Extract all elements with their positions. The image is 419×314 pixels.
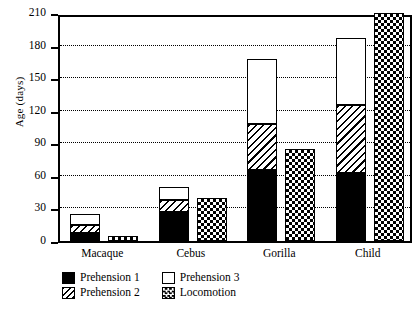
y-tick-mark — [51, 112, 58, 114]
bar-segment-macaque-prehension-1 — [70, 233, 100, 241]
y-tick-label: 90 — [35, 137, 47, 149]
x-axis-labels: MacaqueCebusGorillaChild — [58, 247, 412, 265]
y-tick-mark — [51, 177, 58, 179]
bar-segment-macaque-prehension-3 — [70, 214, 100, 225]
bar-segment-child-prehension-3 — [336, 38, 366, 105]
legend-item-locomotion: Locomotion — [162, 287, 240, 299]
legend-swatch-p1 — [62, 272, 75, 284]
bar-group — [60, 17, 410, 241]
y-axis-ticks: 0306090120150180210 — [0, 15, 58, 243]
bar-locomotion-macaque — [108, 236, 138, 241]
chart-legend: Prehension 1Prehension 3Prehension 2Loco… — [62, 272, 239, 299]
y-tick-label: 30 — [35, 202, 47, 214]
legend-label: Prehension 1 — [80, 272, 140, 284]
legend-swatch-p3 — [162, 272, 175, 284]
bar-stack-child — [336, 38, 366, 241]
bar-segment-macaque-locomotion — [108, 236, 138, 241]
bar-segment-gorilla-prehension-1 — [247, 170, 277, 241]
bar-segment-child-prehension-1 — [336, 173, 366, 241]
y-tick-mark — [51, 47, 58, 49]
x-axis-label-child: Child — [324, 247, 413, 259]
y-tick-label: 0 — [40, 235, 46, 247]
bar-segment-child-prehension-2 — [336, 105, 366, 172]
legend-label: Locomotion — [180, 287, 236, 299]
y-tick-mark — [51, 79, 58, 81]
x-axis-label-gorilla: Gorilla — [235, 247, 324, 259]
y-tick-mark — [51, 242, 58, 244]
legend-item-prehension-1: Prehension 1 — [62, 272, 140, 284]
bar-stack-gorilla — [247, 59, 277, 241]
x-axis-label-cebus: Cebus — [147, 247, 236, 259]
y-tick-mark — [51, 144, 58, 146]
bar-segment-gorilla-prehension-3 — [247, 59, 277, 124]
legend-swatch-loco — [162, 287, 175, 299]
bar-segment-cebus-prehension-1 — [159, 212, 189, 241]
legend-item-prehension-3: Prehension 3 — [162, 272, 240, 284]
y-tick-mark — [51, 14, 58, 16]
legend-label: Prehension 2 — [80, 287, 140, 299]
y-tick-label: 120 — [29, 105, 46, 117]
bar-segment-cebus-prehension-3 — [159, 187, 189, 200]
bar-locomotion-cebus — [197, 198, 227, 241]
y-tick-label: 60 — [35, 170, 47, 182]
plot-area — [58, 15, 412, 243]
stacked-bar-chart: Age (days) 0306090120150180210 MacaqueCe… — [0, 0, 419, 314]
y-tick-label: 150 — [29, 72, 46, 84]
bar-segment-child-locomotion — [374, 13, 404, 241]
x-axis-label-macaque: Macaque — [58, 247, 147, 259]
bar-segment-cebus-locomotion — [197, 198, 227, 241]
bar-segment-gorilla-prehension-2 — [247, 124, 277, 171]
legend-label: Prehension 3 — [180, 272, 240, 284]
bar-segment-macaque-prehension-2 — [70, 225, 100, 234]
bar-segment-gorilla-locomotion — [285, 149, 315, 241]
bar-stack-cebus — [159, 187, 189, 241]
bar-locomotion-gorilla — [285, 149, 315, 241]
bar-stack-macaque — [70, 214, 100, 241]
y-tick-label: 210 — [29, 7, 46, 19]
bar-segment-cebus-prehension-2 — [159, 200, 189, 212]
bar-locomotion-child — [374, 13, 404, 241]
legend-swatch-p2 — [62, 287, 75, 299]
legend-item-prehension-2: Prehension 2 — [62, 287, 140, 299]
y-tick-label: 180 — [29, 40, 46, 52]
y-tick-mark — [51, 209, 58, 211]
